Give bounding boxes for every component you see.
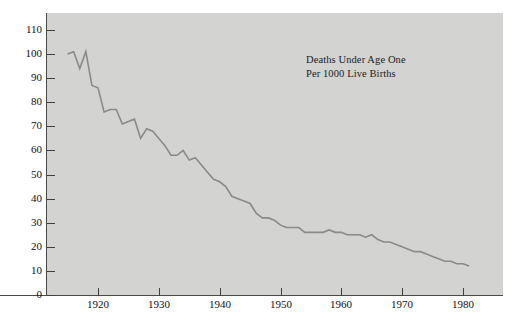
series-line-infant-mortality [68,52,470,266]
series-layer [0,0,515,326]
infant-mortality-line-chart: 0102030405060708090100110 19201930194019… [0,0,515,326]
